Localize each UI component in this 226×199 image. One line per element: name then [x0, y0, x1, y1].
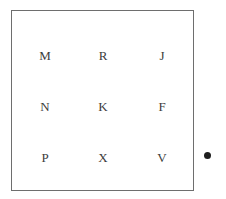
grid-cell-r1-c1: K — [91, 97, 115, 117]
grid-cell-r2-c0: P — [33, 148, 57, 168]
grid-cell-r0-c2: J — [150, 46, 174, 66]
grid-cell-r2-c2: V — [150, 148, 174, 168]
grid-cell-r1-c0: N — [33, 97, 57, 117]
grid-cell-r0-c1: R — [91, 46, 115, 66]
grid-cell-r0-c0: M — [33, 46, 57, 66]
grid-cell-r2-c1: X — [91, 148, 115, 168]
figure-root: M R J N K F P X V — [0, 0, 226, 199]
letter-grid-box: M R J N K F P X V — [11, 10, 194, 191]
side-dot-icon — [204, 152, 211, 159]
grid-cell-r1-c2: F — [150, 97, 174, 117]
